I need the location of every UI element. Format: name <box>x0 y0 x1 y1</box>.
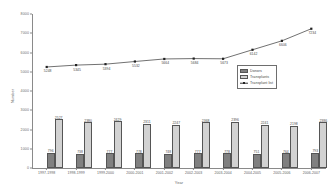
x-axis-tick: 1998-1999 <box>67 168 84 175</box>
x-axis-tick-mark <box>252 168 253 170</box>
x-axis-tick-mark <box>164 168 165 170</box>
line-data-point <box>104 63 106 65</box>
line-value-label: 5673 <box>220 61 228 65</box>
x-axis-tick-label: 2003-2004 <box>214 171 231 175</box>
line-value-label: 5394 <box>103 67 111 71</box>
chart-legend: Donors Transplants Transplant list <box>237 65 277 89</box>
x-axis-tick-label: 2002-2003 <box>185 171 202 175</box>
bar-value-label: 793 <box>312 149 318 153</box>
bar-transplants: 2311 <box>143 124 151 168</box>
line-path-transplant-list <box>47 29 312 67</box>
x-axis-tick-mark <box>46 168 47 170</box>
x-axis-tick-label: 1998-1999 <box>67 171 84 175</box>
bar-transplants: 2380 <box>84 122 92 168</box>
legend-label-donors: Donors <box>250 69 262 73</box>
line-data-point <box>251 49 253 51</box>
x-axis-tick: 2005-2006 <box>273 168 290 175</box>
x-axis-tick-label: 2005-2006 <box>273 171 290 175</box>
line-data-point <box>163 58 165 60</box>
line-data-point <box>193 57 195 59</box>
bar-value-label: 778 <box>224 150 230 154</box>
bar-transplants: 2368 <box>202 122 210 168</box>
plot-area: 010002000300040005000600070008000 796252… <box>32 14 326 168</box>
legend-swatch-icon-transplants <box>240 75 248 79</box>
x-axis-tick: 2001-2002 <box>156 168 173 175</box>
y-axis-tick-label: 5000 <box>21 70 29 74</box>
line-value-label: 5248 <box>44 69 52 73</box>
bar-value-label: 2396 <box>231 118 239 122</box>
y-axis-tick-mark <box>30 148 32 149</box>
bar-value-label: 2247 <box>172 121 180 125</box>
bar-value-label: 796 <box>48 149 54 153</box>
y-axis-tick-mark <box>30 129 32 130</box>
x-axis-tick-mark <box>311 168 312 170</box>
bar-donors: 738 <box>76 154 84 168</box>
line-value-label: 5684 <box>191 61 199 65</box>
x-axis-tick: 2006-2007 <box>303 168 320 175</box>
bar-transplants: 2386 <box>319 122 327 168</box>
bar-donors: 777 <box>106 153 114 168</box>
bar-transplants: 2429 <box>114 121 122 168</box>
y-axis-tick-mark <box>30 71 32 72</box>
bar-value-label: 748 <box>165 150 171 154</box>
x-axis-tick-mark <box>193 168 194 170</box>
line-data-point <box>134 60 136 62</box>
x-axis-tick-mark <box>223 168 224 170</box>
bar-value-label: 738 <box>77 150 83 154</box>
x-axis-tick-mark <box>134 168 135 170</box>
line-value-label: 5532 <box>132 64 140 68</box>
line-data-point <box>310 28 312 30</box>
y-axis-tick-label: 1000 <box>21 147 29 151</box>
bar-donors: 793 <box>311 153 319 168</box>
line-value-label: 7234 <box>308 31 316 35</box>
bar-transplants: 2247 <box>172 125 180 168</box>
bar-value-label: 2429 <box>114 118 122 122</box>
line-value-label: 5345 <box>73 68 81 72</box>
line-value-label: 6606 <box>279 43 287 47</box>
line-data-point <box>222 58 224 60</box>
bar-value-label: 2380 <box>84 119 92 123</box>
y-axis-title: Number <box>11 89 15 103</box>
y-axis-tick-mark <box>30 168 32 169</box>
bar-value-label: 2198 <box>290 122 298 126</box>
bar-donors: 751 <box>253 154 261 168</box>
bar-donors: 764 <box>282 153 290 168</box>
y-axis-tick-mark <box>30 14 32 15</box>
y-axis-tick-mark <box>30 33 32 34</box>
x-axis-tick: 2003-2004 <box>214 168 231 175</box>
x-axis-tick-mark <box>105 168 106 170</box>
y-axis-tick-label: 6000 <box>21 51 29 55</box>
x-axis-tick: 2000-2001 <box>126 168 143 175</box>
bar-value-label: 764 <box>283 150 289 154</box>
bar-value-label: 2311 <box>143 120 151 124</box>
bar-value-label: 777 <box>107 150 113 154</box>
line-data-point <box>46 66 48 68</box>
bar-donors: 778 <box>135 153 143 168</box>
line-data-point <box>281 40 283 42</box>
y-axis-tick-label: 8000 <box>21 12 29 16</box>
x-axis-tick-label: 2004-2005 <box>244 171 261 175</box>
bar-value-label: 2527 <box>55 116 63 120</box>
x-axis-tick-label: 2001-2002 <box>156 171 173 175</box>
bar-value-label: 2386 <box>319 119 327 123</box>
y-axis-tick-mark <box>30 110 32 111</box>
line-data-point <box>75 64 77 66</box>
x-axis-tick-label: 1997-1998 <box>38 171 55 175</box>
bar-value-label: 2241 <box>261 121 269 125</box>
x-axis-tick-label: 2006-2007 <box>303 171 320 175</box>
bar-value-label: 778 <box>136 150 142 154</box>
line-value-label: 6142 <box>250 52 258 56</box>
legend-label-transplant-list: Transplant list <box>250 81 273 85</box>
x-axis-tick: 1997-1998 <box>38 168 55 175</box>
y-axis-tick-label: 7000 <box>21 31 29 35</box>
y-axis-tick-label: 4000 <box>21 89 29 93</box>
bar-donors: 778 <box>223 153 231 168</box>
legend-line-marker-icon <box>240 81 248 85</box>
bar-transplants: 2396 <box>231 122 239 168</box>
y-axis-tick-mark <box>30 52 32 53</box>
x-axis-tick-label: 1999-2000 <box>97 171 114 175</box>
bar-value-label: 777 <box>195 150 201 154</box>
bar-transplants: 2527 <box>55 119 63 168</box>
x-axis-title: Year <box>32 180 326 185</box>
x-axis-tick-label: 2000-2001 <box>126 171 143 175</box>
